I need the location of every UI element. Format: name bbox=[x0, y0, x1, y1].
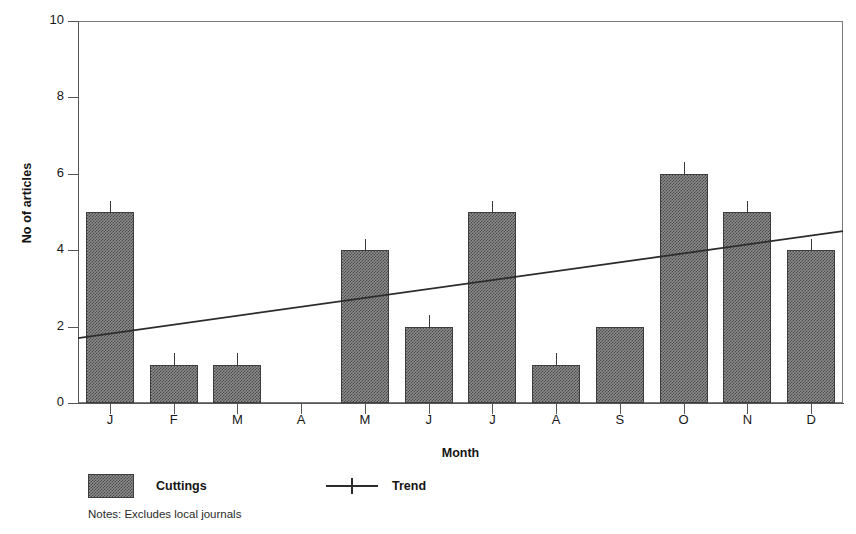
error-bar-1 bbox=[174, 353, 175, 364]
y-tick-label: 10 bbox=[38, 12, 64, 27]
bar-1 bbox=[150, 365, 198, 403]
x-tick-label: A bbox=[286, 412, 316, 427]
x-tick-label: J bbox=[414, 412, 444, 427]
bar-6 bbox=[468, 212, 516, 403]
x-tick-label: D bbox=[796, 412, 826, 427]
y-axis-title: No of articles bbox=[20, 138, 34, 268]
y-tick-label: 6 bbox=[38, 165, 64, 180]
bar-11 bbox=[787, 250, 835, 403]
y-tick-mark bbox=[68, 97, 79, 98]
x-axis-title: Month bbox=[411, 446, 511, 460]
x-tick-label: S bbox=[605, 412, 635, 427]
error-bar-7 bbox=[556, 353, 557, 364]
y-tick-mark bbox=[68, 403, 79, 404]
x-tick-label: O bbox=[669, 412, 699, 427]
y-tick-mark bbox=[68, 21, 79, 22]
y-tick-mark bbox=[68, 174, 79, 175]
chart-notes: Notes: Excludes local journals bbox=[88, 508, 241, 520]
error-bar-2 bbox=[237, 353, 238, 364]
error-bar-4 bbox=[365, 239, 366, 250]
bar-5 bbox=[405, 327, 453, 403]
x-tick-label: J bbox=[477, 412, 507, 427]
x-tick-label: A bbox=[541, 412, 571, 427]
x-tick-label: M bbox=[222, 412, 252, 427]
y-tick-label: 0 bbox=[38, 394, 64, 409]
bar-0 bbox=[86, 212, 134, 403]
error-bar-0 bbox=[110, 201, 111, 212]
x-tick-label: F bbox=[159, 412, 189, 427]
y-axis-line bbox=[78, 21, 79, 404]
legend-label-trend: Trend bbox=[392, 479, 426, 493]
y-tick-label: 8 bbox=[38, 88, 64, 103]
x-axis-line bbox=[78, 403, 844, 404]
y-tick-label: 4 bbox=[38, 241, 64, 256]
bar-chart: No of articles 0246810JFMAMJJASOND Month… bbox=[0, 0, 856, 534]
error-bar-9 bbox=[684, 162, 685, 173]
x-tick-label: M bbox=[350, 412, 380, 427]
bar-8 bbox=[596, 327, 644, 403]
x-tick-label: J bbox=[95, 412, 125, 427]
y-tick-label: 2 bbox=[38, 318, 64, 333]
legend-item-cuttings: Cuttings bbox=[88, 472, 207, 500]
legend-item-trend: Trend bbox=[326, 472, 426, 500]
bar-9 bbox=[660, 174, 708, 403]
x-tick-label: N bbox=[732, 412, 762, 427]
bar-10 bbox=[723, 212, 771, 403]
y-tick-mark bbox=[68, 250, 79, 251]
error-bar-11 bbox=[811, 239, 812, 250]
bar-7 bbox=[532, 365, 580, 403]
cuttings-swatch-icon bbox=[88, 474, 134, 498]
y-tick-mark bbox=[68, 327, 79, 328]
bar-2 bbox=[213, 365, 261, 403]
error-bar-10 bbox=[747, 201, 748, 212]
bar-4 bbox=[341, 250, 389, 403]
error-bar-5 bbox=[429, 315, 430, 326]
error-bar-6 bbox=[492, 201, 493, 212]
legend-label-cuttings: Cuttings bbox=[156, 479, 207, 493]
trend-line-icon bbox=[326, 474, 378, 498]
